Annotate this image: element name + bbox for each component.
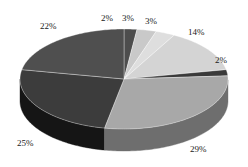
pie-data-label-8: 22% — [40, 22, 57, 31]
pie-chart: 2%3%3%14%2%29%25%22% — [0, 0, 248, 167]
pie-chart-graphic — [0, 0, 248, 167]
pie-data-label-2: 3% — [122, 14, 134, 23]
pie-data-label-6: 29% — [190, 145, 207, 154]
pie-data-label-7: 25% — [17, 139, 34, 148]
pie-data-label-1: 2% — [101, 14, 113, 23]
pie-data-label-4: 14% — [188, 28, 205, 37]
pie-data-label-3: 3% — [145, 17, 157, 26]
pie-data-label-5: 2% — [215, 56, 227, 65]
pie-top-slices — [20, 29, 228, 129]
